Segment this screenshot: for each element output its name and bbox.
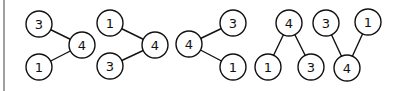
node-3: 3 [313, 10, 339, 36]
node-label: 3 [35, 17, 43, 32]
node-label: 1 [35, 60, 43, 75]
tree-1: 341 [26, 11, 95, 80]
node-label: 4 [185, 37, 193, 52]
node-4: 4 [334, 55, 360, 81]
node-3: 3 [220, 10, 246, 36]
node-label: 3 [307, 60, 315, 75]
node-label: 1 [229, 60, 237, 75]
node-label: 1 [264, 60, 272, 75]
node-1: 1 [255, 54, 281, 80]
node-label: 3 [106, 59, 114, 74]
node-1: 1 [97, 10, 123, 36]
tree-2: 143 [97, 10, 168, 79]
node-3: 3 [298, 54, 324, 80]
node-1: 1 [220, 54, 246, 80]
node-1: 1 [355, 9, 381, 35]
node-4: 4 [142, 32, 168, 58]
node-label: 4 [343, 61, 351, 76]
node-label: 4 [285, 16, 293, 31]
tree-3: 431 [176, 10, 246, 80]
node-label: 4 [78, 38, 86, 53]
node-label: 1 [364, 15, 372, 30]
node-3: 3 [97, 53, 123, 79]
node-4: 4 [69, 32, 95, 58]
node-label: 1 [106, 16, 114, 31]
tree-diagram: 341143431413341 [0, 0, 400, 91]
node-label: 4 [151, 38, 159, 53]
diagram-frame: 341143431413341 [0, 0, 400, 91]
node-3: 3 [26, 11, 52, 37]
node-label: 3 [229, 16, 237, 31]
node-4: 4 [276, 10, 302, 36]
node-label: 3 [322, 16, 330, 31]
node-4: 4 [176, 31, 202, 57]
node-1: 1 [26, 54, 52, 80]
